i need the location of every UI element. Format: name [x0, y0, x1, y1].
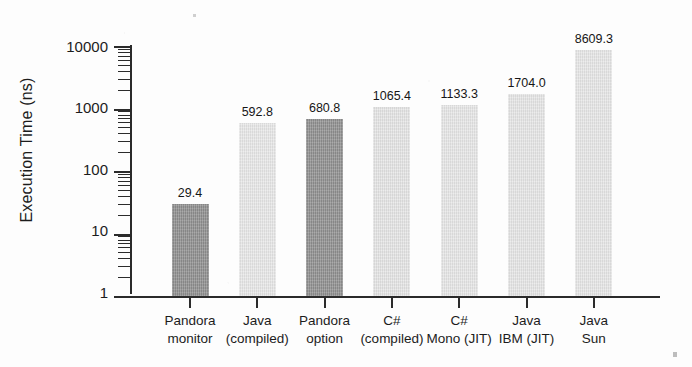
bar-value-label: 592.8 [242, 105, 273, 119]
x-axis-category-label: C#Mono (JIT) [427, 312, 492, 348]
x-axis-tick [593, 298, 595, 308]
x-axis-tick [391, 298, 393, 308]
bar-value-label: 1704.0 [507, 76, 545, 90]
bar-texture [172, 204, 209, 296]
bar[interactable]: 1065.4 [373, 107, 410, 296]
bar-value-label: 29.4 [178, 186, 202, 200]
x-axis-tick [189, 298, 191, 308]
x-axis-category-line2: IBM (JIT) [499, 330, 555, 348]
bar-value-label: 1133.3 [441, 87, 478, 101]
bar-texture [441, 105, 478, 296]
x-axis-category-line1: C# [427, 312, 492, 330]
x-axis-tick [526, 298, 528, 308]
x-axis-category-line2: monitor [164, 330, 215, 348]
bar[interactable]: 1704.0 [508, 94, 545, 296]
bar-value-label: 8609.3 [575, 32, 613, 46]
x-axis-category-line1: Java [499, 312, 555, 330]
x-axis-tick [458, 298, 460, 308]
x-axis-category-label: Pandoramonitor [164, 312, 215, 348]
x-axis-category-label: Java(compiled) [226, 312, 289, 348]
x-axis-category-line1: Java [226, 312, 289, 330]
x-axis-category-label: JavaSun [580, 312, 609, 348]
bar[interactable]: 29.4 [172, 204, 209, 296]
x-axis-category-line1: C# [360, 312, 423, 330]
bar[interactable]: 592.8 [239, 123, 276, 296]
bar-texture [508, 94, 545, 296]
scan-speck [673, 352, 677, 357]
bar[interactable]: 680.8 [306, 119, 343, 296]
x-axis-category-line1: Pandora [164, 312, 215, 330]
bar-texture [239, 123, 276, 296]
x-axis-category-line1: Pandora [299, 312, 350, 330]
chart-figure: Execution Time (ns) 10000 1000 100 10 1 … [0, 0, 692, 367]
bar-texture [373, 107, 410, 296]
x-axis-category-line2: (compiled) [226, 330, 289, 348]
x-axis-category-label: JavaIBM (JIT) [499, 312, 555, 348]
x-axis-tick [324, 298, 326, 308]
x-axis-category-line2: Sun [580, 330, 609, 348]
x-axis-tick [256, 298, 258, 308]
x-axis-category-label: C#(compiled) [360, 312, 423, 348]
bar-series: 29.4592.8680.81065.41133.31704.08609.3 [0, 0, 692, 297]
x-axis-category-line2: Mono (JIT) [427, 330, 492, 348]
x-axis-category-label: Pandoraoption [299, 312, 350, 348]
bar-texture [575, 50, 612, 296]
bar-value-label: 680.8 [309, 101, 340, 115]
x-axis-category-line2: option [299, 330, 350, 348]
bar[interactable]: 8609.3 [575, 50, 612, 296]
x-axis-category-line2: (compiled) [360, 330, 423, 348]
bar-texture [306, 119, 343, 296]
bar[interactable]: 1133.3 [441, 105, 478, 296]
x-axis-category-line1: Java [580, 312, 609, 330]
bar-value-label: 1065.4 [373, 89, 411, 103]
